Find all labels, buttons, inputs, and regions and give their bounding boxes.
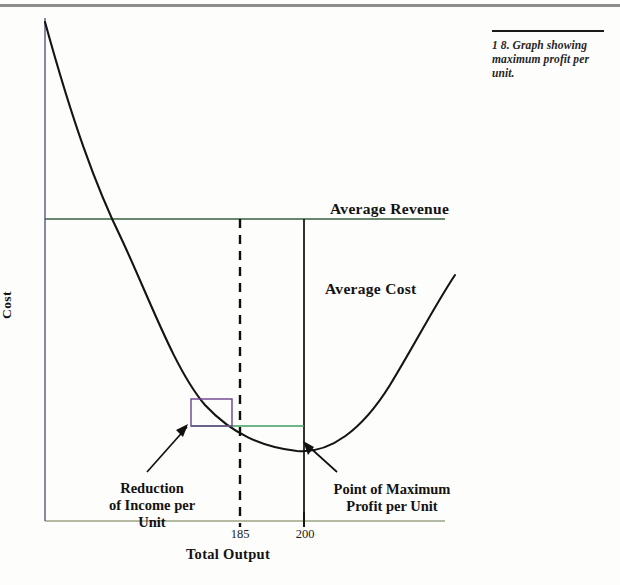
chart-figure: Average Revenue Average Cost Cost Total … bbox=[0, 0, 470, 585]
reduction-annotation-line-2: of Income per bbox=[72, 497, 232, 514]
figure-caption-block: 1 8. Graph showing maximum profit per un… bbox=[492, 30, 610, 80]
reduction-annotation-line-1: Reduction bbox=[72, 480, 232, 497]
figure-caption-text: 1 8. Graph showing maximum profit per un… bbox=[492, 38, 610, 80]
max-profit-annotation-arrow bbox=[303, 441, 337, 472]
figure-page: 1 8. Graph showing maximum profit per un… bbox=[0, 0, 620, 585]
max-profit-annotation: Point of Maximum Profit per Unit bbox=[312, 481, 472, 515]
max-profit-annotation-line-2: Profit per Unit bbox=[312, 498, 472, 515]
reduction-annotation-line-3: Unit bbox=[72, 514, 232, 531]
x-tick-label-185: 185 bbox=[231, 527, 250, 542]
caption-rule bbox=[492, 30, 604, 32]
average-cost-curve bbox=[45, 22, 455, 451]
reduction-of-income-annotation: Reduction of Income per Unit bbox=[72, 480, 232, 531]
y-axis-label: Cost bbox=[0, 291, 15, 319]
average-revenue-label: Average Revenue bbox=[330, 200, 449, 218]
reduction-annotation-arrow bbox=[147, 424, 188, 472]
x-axis-label: Total Output bbox=[186, 546, 270, 563]
max-profit-annotation-line-1: Point of Maximum bbox=[312, 481, 472, 498]
x-tick-label-200: 200 bbox=[296, 527, 315, 542]
average-cost-label: Average Cost bbox=[325, 280, 417, 298]
